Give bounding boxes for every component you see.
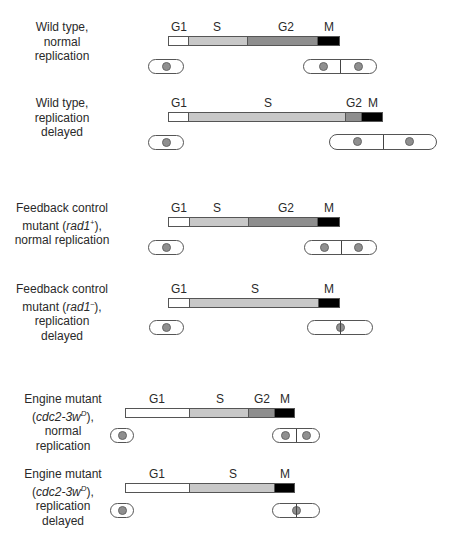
label-line: Wild type,	[22, 20, 102, 35]
row-label: Wild type, replication delayed	[22, 96, 102, 140]
septum	[296, 429, 297, 442]
nucleus-icon	[320, 243, 329, 252]
septum-cut	[340, 321, 341, 334]
segment-s	[190, 408, 249, 418]
segment-g2	[248, 36, 318, 46]
cell-cut	[272, 503, 320, 518]
row-label: Engine mutant (cdc2-3wD), replication de…	[18, 467, 108, 528]
cycle-bar	[168, 112, 383, 122]
phase-label-m: M	[280, 392, 290, 406]
nucleus-icon	[405, 137, 414, 146]
label-line: Engine mutant	[18, 392, 108, 407]
phase-label-g1: G1	[149, 392, 165, 406]
phase-label-s: S	[213, 20, 221, 34]
phase-label-s: S	[229, 467, 237, 481]
label-text: mutant (	[22, 219, 66, 233]
segment-g2	[346, 112, 362, 122]
cycle-bar	[125, 408, 295, 418]
septum-cut	[296, 504, 297, 517]
septum	[383, 135, 384, 149]
cell-dividing	[304, 240, 377, 255]
phase-label-g1: G1	[171, 201, 187, 215]
nucleus-icon	[162, 243, 171, 252]
segment-m	[318, 217, 340, 227]
label-text: ),	[87, 485, 94, 499]
label-line: Feedback control	[14, 282, 110, 297]
segment-m	[319, 298, 340, 308]
cell-start	[148, 135, 184, 150]
nucleus-icon	[319, 62, 328, 71]
label-text: ),	[94, 219, 101, 233]
phase-label-m: M	[368, 96, 378, 110]
cycle-bar	[168, 298, 340, 308]
row-label: Engine mutant (cdc2-3wD), normal replica…	[18, 392, 108, 453]
segment-g1	[168, 36, 189, 46]
segment-m	[275, 408, 295, 418]
cell-start	[148, 59, 184, 74]
label-line: mutant (rad1–),	[14, 297, 110, 315]
phase-label-g2: G2	[346, 96, 362, 110]
gene-name: cdc2-3w	[36, 410, 81, 424]
phase-label-g2: G2	[254, 392, 270, 406]
septum	[340, 60, 341, 73]
phase-label-s: S	[216, 392, 224, 406]
row-label: Feedback control mutant (rad1–), replica…	[14, 282, 110, 343]
cell-start	[148, 240, 184, 255]
label-text: ),	[87, 410, 94, 424]
cell-start	[149, 320, 184, 335]
label-line: normal	[22, 35, 102, 50]
label-line: replication	[22, 111, 102, 126]
nucleus-icon	[354, 62, 363, 71]
segment-g2	[249, 217, 318, 227]
segment-s	[190, 298, 319, 308]
nucleus-icon	[281, 431, 290, 440]
label-line: normal replication	[14, 233, 110, 248]
label-line: mutant (rad1+),	[14, 216, 110, 234]
septum	[341, 241, 342, 254]
phase-label-g2: G2	[278, 20, 294, 34]
label-line: delayed	[22, 125, 102, 140]
cycle-bar	[125, 483, 295, 493]
phase-label-m: M	[324, 201, 334, 215]
phase-label-m: M	[324, 20, 334, 34]
gene-name: rad1	[66, 300, 90, 314]
nucleus-icon	[162, 323, 171, 332]
row-label: Wild type, normal replication	[22, 20, 102, 64]
label-line: Wild type,	[22, 96, 102, 111]
segment-s	[189, 112, 346, 122]
cycle-bar	[168, 217, 340, 227]
nucleus-icon	[354, 243, 363, 252]
row-label: Feedback control mutant (rad1+), normal …	[14, 201, 110, 248]
cell-start	[110, 428, 134, 443]
label-line: (cdc2-3wD),	[18, 407, 108, 425]
segment-s	[190, 483, 275, 493]
segment-m	[318, 36, 340, 46]
nucleus-icon	[162, 62, 171, 71]
nucleus-icon	[302, 431, 311, 440]
phase-label-s: S	[251, 282, 259, 296]
cell-start	[110, 503, 134, 518]
label-text: ),	[94, 300, 101, 314]
nucleus-icon	[118, 431, 127, 440]
segment-g1	[125, 408, 190, 418]
label-line: replication	[22, 49, 102, 64]
segment-s	[190, 217, 249, 227]
phase-label-s: S	[213, 201, 221, 215]
segment-m	[362, 112, 383, 122]
label-line: Engine mutant	[18, 467, 108, 482]
phase-label-g1: G1	[171, 20, 187, 34]
cycle-bar	[168, 36, 340, 46]
phase-label-s: S	[264, 96, 272, 110]
gene-name: cdc2-3w	[36, 485, 81, 499]
segment-g1	[125, 483, 190, 493]
label-text: mutant (	[22, 300, 66, 314]
label-line: normal replication	[18, 424, 108, 453]
phase-label-g1: G1	[149, 467, 165, 481]
cell-dividing	[272, 428, 320, 443]
phase-label-m: M	[324, 282, 334, 296]
segment-g2	[249, 408, 275, 418]
phase-label-g1: G1	[171, 96, 187, 110]
nucleus-icon	[162, 138, 171, 147]
nucleus-icon	[353, 137, 362, 146]
segment-g1	[168, 112, 189, 122]
